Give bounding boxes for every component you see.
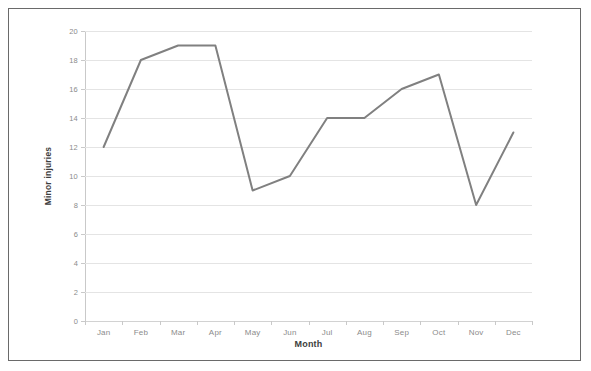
y-tick-label: 20 (69, 27, 78, 36)
x-tick-mark (197, 321, 198, 325)
x-tick-mark (85, 321, 86, 325)
y-tick-label: 0 (74, 317, 78, 326)
x-tick-mark (420, 321, 421, 325)
x-tick-label: Jan (97, 328, 111, 337)
y-axis-title: Minor injuries (43, 31, 55, 321)
x-tick-mark (122, 321, 123, 325)
x-axis-title: Month (85, 339, 532, 349)
x-tick-label: Nov (469, 328, 484, 337)
x-tick-label: Feb (134, 328, 148, 337)
x-tick-mark (234, 321, 235, 325)
x-tick-mark (160, 321, 161, 325)
x-tick-mark (495, 321, 496, 325)
line-series-svg (85, 31, 532, 321)
x-tick-label: Jun (283, 328, 297, 337)
x-tick-label: Jul (322, 328, 333, 337)
x-tick-mark (271, 321, 272, 325)
y-tick-label: 2 (74, 288, 78, 297)
y-tick-label: 18 (69, 56, 78, 65)
x-tick-label: Oct (432, 328, 445, 337)
y-tick-label: 14 (69, 114, 78, 123)
x-tick-label: Dec (506, 328, 521, 337)
x-tick-mark (458, 321, 459, 325)
x-tick-mark (346, 321, 347, 325)
chart-figure: Minor injuries 02468101214161820 JanFebM… (8, 8, 581, 361)
line-series-minor-injuries (104, 46, 514, 206)
plot-area: 02468101214161820 JanFebMarAprMayJunJulA… (85, 31, 532, 321)
x-tick-label: May (245, 328, 261, 337)
x-tick-mark (532, 321, 533, 325)
x-tick-label: Mar (171, 328, 185, 337)
y-tick-label: 6 (74, 230, 78, 239)
x-tick-label: Apr (209, 328, 222, 337)
y-tick-label: 8 (74, 201, 78, 210)
x-tick-label: Aug (357, 328, 372, 337)
x-tick-mark (309, 321, 310, 325)
y-tick-label: 16 (69, 85, 78, 94)
x-tick-label: Sep (394, 328, 409, 337)
x-tick-mark (383, 321, 384, 325)
y-tick-label: 10 (69, 172, 78, 181)
y-tick-label: 4 (74, 259, 78, 268)
y-tick-label: 12 (69, 143, 78, 152)
